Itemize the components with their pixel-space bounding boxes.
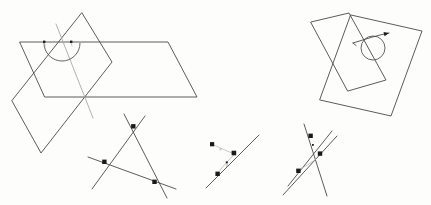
right-line-diagonal: [283, 136, 337, 195]
triangle-vertex-left: [102, 160, 106, 164]
right-point-left: [296, 169, 300, 173]
right-point-crossing: [312, 144, 314, 146]
geometry-figure-svg: F A: [0, 0, 431, 205]
geometry-figure-canvas: F A: [0, 0, 431, 205]
tilted-plane-outline: [12, 13, 112, 153]
plane-right-leaning-outline: [320, 15, 422, 116]
right-angle-tick-left: [43, 41, 45, 43]
triangle-line-3: [88, 157, 176, 189]
right-line-shallow: [288, 131, 332, 186]
triangle-vertex-right: [152, 180, 156, 184]
panel-line-with-offset-point: F A: [206, 135, 259, 188]
triangle-vertex-top: [131, 124, 135, 128]
right-angle-tick-right: [70, 41, 72, 43]
panel-concurrent-lines-with-markers: [283, 124, 337, 196]
middle-point-offset: [210, 142, 214, 146]
plane-left-leaning-outline: [311, 13, 386, 91]
horizontal-plane-outline: [20, 42, 197, 97]
intersection-line: [56, 24, 93, 118]
direction-arrow-head: [384, 32, 390, 36]
triangle-line-1: [92, 116, 145, 189]
middle-label-f: F: [220, 148, 222, 152]
panel-intersecting-planes-with-dihedral-angle: [12, 13, 197, 153]
right-point-top: [308, 134, 312, 138]
panel-triangle-from-three-lines: [88, 114, 176, 198]
triangle-line-2: [124, 114, 167, 198]
panel-intersecting-planes-with-circle-and-arrow: [311, 13, 422, 116]
middle-point-lower: [215, 172, 219, 176]
right-point-middle: [318, 151, 322, 155]
tick-stub-right: [71, 43, 72, 46]
dihedral-angle-arc: [44, 43, 80, 61]
direction-arrow-tail: [353, 43, 356, 46]
middle-offset-connector: [214, 145, 234, 154]
middle-point-on-line: [232, 151, 237, 156]
